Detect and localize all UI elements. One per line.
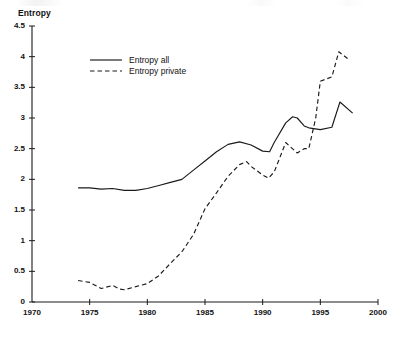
y-axis-tick-label: 4 [3, 53, 25, 61]
x-axis-tick-label: 1980 [130, 309, 164, 317]
axes [29, 26, 378, 305]
x-axis-tick-label: 1970 [15, 309, 49, 317]
y-axis-tick-label: 1 [3, 237, 25, 245]
plot-area [0, 0, 396, 338]
y-axis-tick-label: 1.5 [3, 206, 25, 214]
x-axis-tick-label: 1985 [188, 309, 222, 317]
x-axis-tick-label: 2000 [361, 309, 395, 317]
series-line-entropy-all [78, 102, 353, 190]
entropy-line-chart: Entropy 00.511.522.533.544.5 19701975198… [0, 0, 396, 338]
y-axis-tick-label: 2.5 [3, 145, 25, 153]
y-axis-tick-label: 4.5 [3, 22, 25, 30]
y-axis-tick-label: 0 [3, 298, 25, 306]
legend-sample-lines [90, 60, 122, 71]
legend-label-2: Entropy private [129, 67, 186, 76]
x-axis-tick-label: 1990 [246, 309, 280, 317]
y-axis-tick-label: 3 [3, 114, 25, 122]
data-series-group [78, 52, 353, 290]
x-axis-tick-label: 1975 [73, 309, 107, 317]
y-axis-tick-label: 3.5 [3, 83, 25, 91]
series-line-entropy-private [78, 52, 349, 290]
y-axis-tick-label: 2 [3, 175, 25, 183]
x-axis-tick-label: 1995 [303, 309, 337, 317]
legend-label-1: Entropy all [129, 56, 169, 65]
y-axis-tick-label: 0.5 [3, 267, 25, 275]
